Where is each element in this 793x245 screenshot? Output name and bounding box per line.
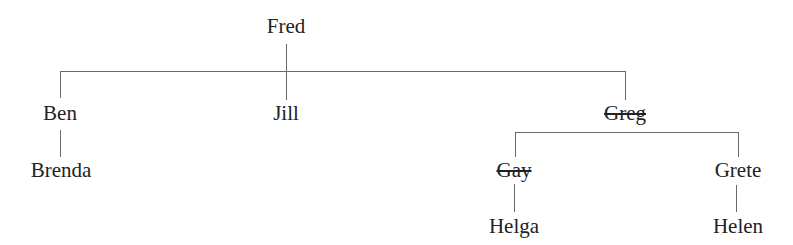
connector-to-gay — [515, 132, 516, 157]
node-fred: Fred — [267, 16, 306, 37]
node-jill: Jill — [273, 103, 299, 124]
connector-ben-brenda — [60, 130, 61, 157]
connector-to-grete — [738, 132, 739, 157]
connector-gen1-horizontal — [60, 71, 626, 72]
node-gay: Gay — [497, 160, 532, 181]
connector-to-ben — [60, 71, 61, 98]
node-helga: Helga — [489, 216, 539, 237]
connector-fred-down — [286, 44, 287, 100]
connector-gay-helga — [514, 184, 515, 212]
family-tree-diagram: Fred Ben Jill Greg Brenda Gay Grete Helg… — [0, 0, 793, 245]
connector-gen2-horizontal — [515, 132, 739, 133]
node-brenda: Brenda — [31, 160, 92, 181]
node-grete: Grete — [715, 160, 762, 181]
node-ben: Ben — [43, 103, 77, 124]
connector-grete-helen — [736, 185, 737, 212]
node-helen: Helen — [713, 216, 763, 237]
connector-to-greg — [625, 71, 626, 100]
node-greg: Greg — [604, 103, 646, 124]
